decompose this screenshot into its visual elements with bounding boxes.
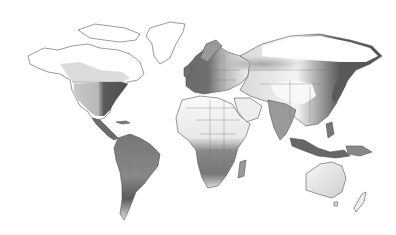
south-america xyxy=(114,134,160,220)
russia-band xyxy=(218,56,306,72)
indonesia xyxy=(290,138,350,158)
usa-shading xyxy=(74,82,128,116)
australia xyxy=(306,162,346,198)
madagascar xyxy=(238,160,246,178)
tasmania xyxy=(334,202,338,206)
canada-arctic-islands xyxy=(78,24,140,42)
central-america xyxy=(92,118,118,140)
world-map xyxy=(0,0,396,235)
greenland xyxy=(146,22,185,64)
philippines xyxy=(326,122,334,138)
new-guinea xyxy=(346,146,372,156)
caribbean xyxy=(116,121,130,124)
new-zealand xyxy=(354,192,366,212)
